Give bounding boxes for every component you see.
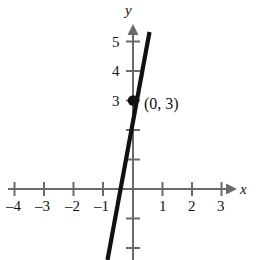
x-tick-label-1: 1 <box>159 199 167 214</box>
y-axis-arrow-icon <box>128 24 139 35</box>
x-tick-label-2: 2 <box>188 199 196 214</box>
y-tick-label-4: 4 <box>112 64 120 79</box>
x-tick-label-neg4: –4 <box>6 199 21 214</box>
x-axis-label: x <box>240 182 247 197</box>
x-tick-label-3: 3 <box>217 199 225 214</box>
coordinate-plane-svg <box>0 0 259 260</box>
y-tick-label-3: 3 <box>112 94 120 109</box>
x-tick-label-neg3: –3 <box>35 199 50 214</box>
y-tick-label-5: 5 <box>112 35 120 50</box>
x-tick-label-neg2: –2 <box>65 199 80 214</box>
point-annotation-label: (0, 3) <box>144 96 179 112</box>
y-axis-label: y <box>125 3 132 18</box>
x-axis-arrow-icon <box>226 184 237 195</box>
point-marker-0-3 <box>128 95 138 105</box>
graph-figure: y x 5 4 3 –4 –3 –2 –1 1 2 3 (0, 3) <box>0 0 259 260</box>
x-tick-label-neg1: –1 <box>94 199 109 214</box>
